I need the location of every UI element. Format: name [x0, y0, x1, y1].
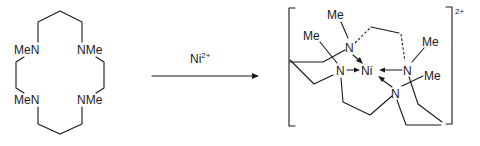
reaction-scheme: MeN NMe MeN NMe Ni2+ 2+ Me N Me N Ni: [0, 0, 480, 146]
label-n-left: N: [336, 64, 345, 78]
me-right-bond: [412, 48, 424, 62]
reagent-label: Ni2+: [190, 51, 211, 66]
coord-arrowhead-left: [354, 68, 360, 73]
label-men-bottom-left: MeN: [14, 93, 39, 107]
bottom-ring-bond: [397, 100, 441, 125]
bottom-bridge-bond: [38, 107, 82, 134]
label-me-top: Me: [327, 8, 344, 22]
me-left-bond: [320, 42, 337, 63]
complex-charge: 2+: [455, 7, 464, 16]
reactant-macrocycle: MeN NMe MeN NMe: [14, 11, 104, 134]
right-bracket: [446, 7, 452, 124]
bridge-top-bond: [371, 27, 399, 33]
label-me-left: Me: [303, 29, 320, 43]
label-n-right: N: [403, 64, 412, 78]
label-n-top: N: [345, 41, 354, 55]
label-nme-bottom-right: NMe: [77, 93, 103, 107]
coord-arrowhead-right: [379, 68, 385, 73]
top-n-ring-bond: [290, 50, 345, 62]
label-men-top-left: MeN: [14, 43, 39, 57]
bridge-left-bottom-bond: [341, 78, 392, 115]
me-top-bond: [341, 22, 348, 38]
label-n-bottom: N: [391, 87, 400, 101]
dashed-bond-top: [355, 27, 371, 43]
label-nme-top-right: NMe: [77, 43, 103, 57]
top-bridge-bond: [38, 11, 82, 42]
left-ring-bond: [290, 60, 333, 84]
right-bridge-bond: [96, 57, 104, 93]
arrowhead-icon: [252, 73, 259, 79]
left-bracket: [289, 8, 295, 126]
reaction-arrow: Ni2+: [152, 51, 259, 79]
product-complex: 2+ Me N Me N Ni N Me N: [289, 7, 464, 126]
left-bridge-bond: [16, 57, 24, 93]
label-ni: Ni: [361, 64, 372, 78]
bridge-right-bottom-bond: [409, 77, 442, 122]
dashed-bond-right: [401, 34, 405, 61]
label-me-bottom: Me: [424, 69, 441, 83]
label-me-right: Me: [422, 35, 439, 49]
